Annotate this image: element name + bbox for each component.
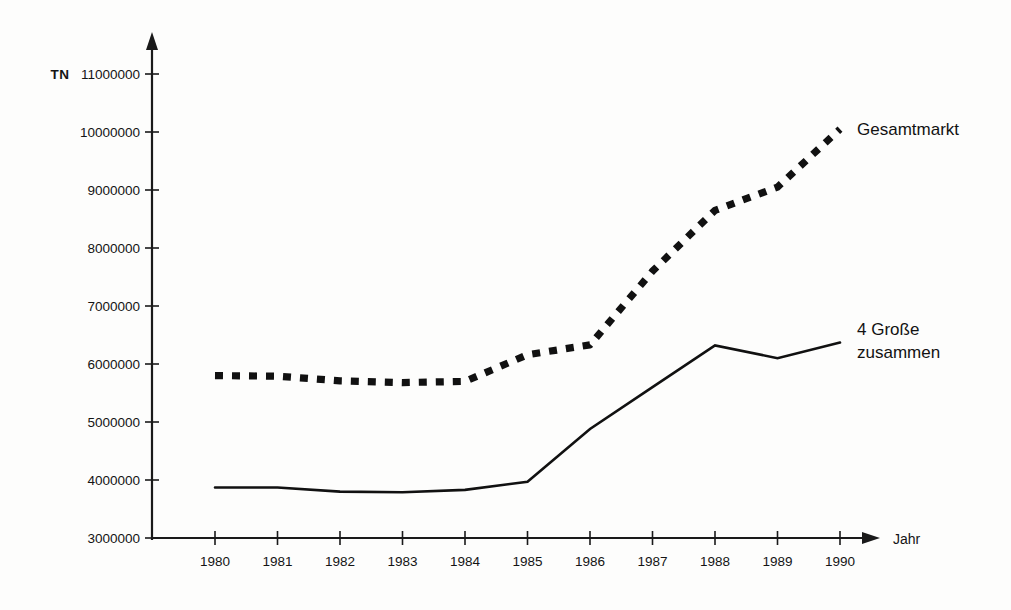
series-label-1: Gesamtmarkt — [857, 120, 959, 139]
x-tick-label: 1982 — [325, 554, 355, 569]
x-tick-label: 1986 — [575, 554, 605, 569]
x-axis-group — [152, 532, 880, 544]
y-tick-label: 4000000 — [87, 473, 140, 488]
y-tick-group: 3000000400000050000006000000700000080000… — [80, 67, 159, 546]
series-line-1 — [215, 129, 840, 382]
chart-container: TN Jahr 30000004000000500000060000007000… — [0, 0, 1011, 610]
series-label-2-line2: zusammen — [857, 343, 940, 362]
y-axis-unit-label: TN — [51, 67, 70, 82]
x-tick-label: 1981 — [262, 554, 292, 569]
y-tick-label: 3000000 — [87, 531, 140, 546]
x-tick-label: 1988 — [700, 554, 730, 569]
y-tick-label: 6000000 — [87, 357, 140, 372]
x-axis-name-label: Jahr — [893, 531, 921, 547]
x-tick-label: 1985 — [512, 554, 542, 569]
x-tick-label: 1987 — [637, 554, 667, 569]
series-line-2 — [215, 343, 840, 493]
y-tick-label: 9000000 — [87, 183, 140, 198]
y-tick-label: 7000000 — [87, 299, 140, 314]
y-tick-label: 11000000 — [81, 67, 140, 82]
y-tick-label: 8000000 — [87, 241, 140, 256]
y-tick-label: 10000000 — [80, 125, 140, 140]
x-tick-label: 1984 — [450, 554, 481, 569]
series-label-2: 4 Große — [857, 320, 919, 339]
x-tick-label: 1983 — [387, 554, 417, 569]
x-tick-label: 1989 — [762, 554, 792, 569]
x-tick-group: 1980198119821983198419851986198719881989… — [200, 531, 855, 569]
line-chart-figure: TN Jahr 30000004000000500000060000007000… — [0, 0, 1011, 610]
series-layer — [215, 129, 840, 492]
y-axis-arrow-icon — [146, 32, 158, 50]
y-axis-group — [146, 32, 158, 540]
x-axis-arrow-icon — [862, 532, 880, 544]
y-tick-label: 5000000 — [87, 415, 140, 430]
series-label-group: Gesamtmarkt4 Großezusammen — [857, 120, 959, 361]
x-tick-label: 1980 — [200, 554, 230, 569]
x-tick-label: 1990 — [825, 554, 855, 569]
